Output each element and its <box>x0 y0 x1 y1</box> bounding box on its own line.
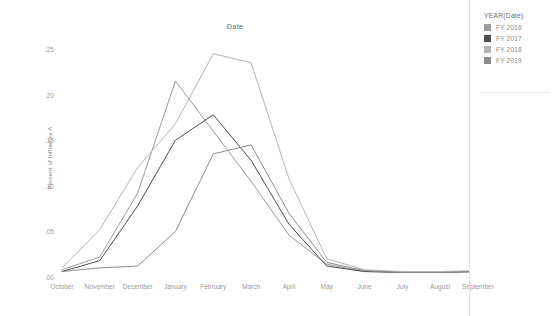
legend-divider <box>480 92 550 93</box>
legend: YEAR(Date) FY 2016FY 2017FY 2018FY 2019 <box>484 12 546 68</box>
legend-item-list: FY 2016FY 2017FY 2018FY 2019 <box>484 24 546 64</box>
series-line <box>62 115 470 273</box>
series-lines <box>62 54 470 273</box>
legend-swatch <box>484 24 491 31</box>
legend-item[interactable]: FY 2018 <box>484 46 546 53</box>
legend-item[interactable]: FY 2017 <box>484 35 546 42</box>
legend-swatch <box>484 35 491 42</box>
legend-item-label: FY 2016 <box>496 24 522 31</box>
legend-item-label: FY 2018 <box>496 46 522 53</box>
legend-item[interactable]: FY 2016 <box>484 24 546 31</box>
legend-item-label: FY 2019 <box>496 57 522 64</box>
chart-app: Date Percent of Influenza A .25.20.15.10… <box>0 0 555 316</box>
legend-item[interactable]: FY 2019 <box>484 57 546 64</box>
plot-area <box>0 0 470 316</box>
legend-swatch <box>484 57 491 64</box>
chart-pane: Date Percent of Influenza A .25.20.15.10… <box>0 0 470 316</box>
legend-title: YEAR(Date) <box>484 12 546 19</box>
series-line <box>62 145 470 273</box>
legend-swatch <box>484 46 491 53</box>
legend-item-label: FY 2017 <box>496 35 522 42</box>
legend-pane: YEAR(Date) FY 2016FY 2017FY 2018FY 2019 <box>470 0 555 316</box>
series-line <box>62 54 470 272</box>
